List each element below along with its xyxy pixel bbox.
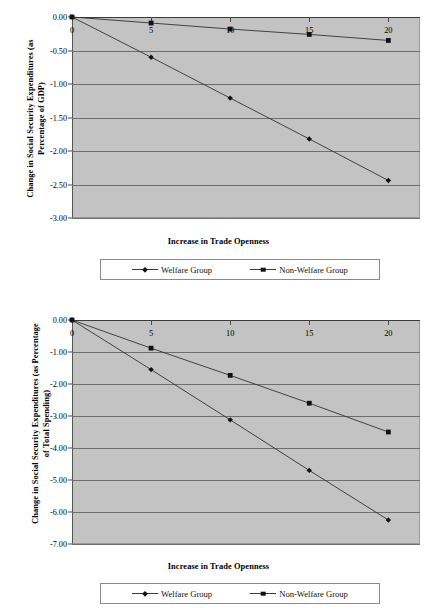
- gridline: [72, 544, 420, 545]
- y-axis-tick-label: -6.00: [50, 508, 67, 517]
- data-point-square: [307, 32, 312, 37]
- x-axis-tick: [388, 320, 389, 325]
- legend-item-welfare-group: Welfare Group: [132, 265, 212, 275]
- data-point-square: [386, 430, 391, 435]
- gridline: [72, 480, 420, 481]
- y-axis-tick-label: -1.00: [50, 348, 67, 357]
- y-axis-tick-label: -2.50: [50, 180, 67, 189]
- square-marker-icon: [250, 265, 276, 274]
- y-axis-tick: [68, 480, 72, 481]
- y-axis-tick-label: -1.50: [50, 113, 67, 122]
- chart-figure-total-spending: Change in Social Security Expenditures (…: [0, 290, 437, 612]
- y-axis-tick-label: -5.00: [50, 476, 67, 485]
- data-point-square: [386, 38, 391, 43]
- data-point-square: [307, 401, 312, 406]
- data-point-diamond: [227, 417, 232, 422]
- y-axis-tick-label: -2.00: [50, 380, 67, 389]
- y-axis-tick: [68, 184, 72, 185]
- x-axis-title: Increase in Trade Openness: [0, 562, 437, 571]
- gridline: [72, 512, 420, 513]
- y-axis-tick-label: 0.00: [53, 316, 67, 325]
- y-axis-tick-label: -2.00: [50, 147, 67, 156]
- y-axis-tick-label: -0.50: [50, 46, 67, 55]
- legend: Welfare Group Non-Welfare Group: [100, 259, 380, 280]
- legend-label: Non-Welfare Group: [279, 589, 348, 599]
- y-axis-tick-label: -7.00: [50, 540, 67, 549]
- legend-item-non-welfare-group: Non-Welfare Group: [250, 265, 348, 275]
- y-axis-tick-label: -1.00: [50, 80, 67, 89]
- data-point-square: [70, 15, 75, 20]
- x-axis-title: Increase in Trade Openness: [0, 237, 437, 246]
- data-point-diamond: [148, 55, 153, 60]
- square-marker-icon: [250, 589, 276, 598]
- data-point-square: [149, 21, 154, 26]
- data-point-square: [149, 346, 154, 351]
- plot-area-gdp: 0.00-0.50-1.00-1.50-2.00-2.50-3.00051015…: [72, 17, 420, 218]
- data-point-square: [228, 373, 233, 378]
- gridline: [72, 218, 420, 219]
- series-layer: [72, 17, 372, 167]
- legend-label: Welfare Group: [161, 265, 212, 275]
- legend-label: Non-Welfare Group: [279, 265, 348, 275]
- y-axis-tick-label: -3.00: [50, 412, 67, 421]
- data-point-diamond: [307, 136, 312, 141]
- legend-label: Welfare Group: [161, 589, 212, 599]
- diamond-marker-icon: [132, 589, 158, 598]
- data-point-diamond: [148, 367, 153, 372]
- diamond-marker-icon: [132, 265, 158, 274]
- y-axis-title: Change in Social Security Expenditures (…: [26, 14, 47, 224]
- page-caption: [0, 604, 437, 612]
- data-point-square: [70, 318, 75, 323]
- plot-area-total-spending: 0.00-1.00-2.00-3.00-4.00-5.00-6.00-7.000…: [72, 320, 420, 544]
- y-axis-tick: [68, 218, 72, 219]
- gridline: [72, 185, 420, 186]
- legend-item-welfare-group: Welfare Group: [132, 589, 212, 599]
- legend: Welfare Group Non-Welfare Group: [100, 583, 380, 604]
- y-axis-title: Change in Social Security Expenditures (…: [31, 309, 52, 539]
- y-axis-tick: [68, 544, 72, 545]
- y-axis-tick-label: 0.00: [53, 13, 67, 22]
- legend-item-non-welfare-group: Non-Welfare Group: [250, 589, 348, 599]
- y-axis-tick: [68, 512, 72, 513]
- y-axis-tick-label: -4.00: [50, 444, 67, 453]
- chart-figure-gdp: Change in Social Security Expenditures (…: [0, 0, 437, 290]
- x-axis-tick-label: 20: [384, 26, 392, 35]
- x-axis-tick-label: 20: [384, 329, 392, 338]
- data-point-square: [228, 27, 233, 32]
- x-axis-tick: [388, 17, 389, 22]
- series-layer: [72, 320, 372, 470]
- figure-page: Change in Social Security Expenditures (…: [0, 0, 437, 612]
- data-point-diamond: [227, 95, 232, 100]
- y-axis-tick-label: -3.00: [50, 214, 67, 223]
